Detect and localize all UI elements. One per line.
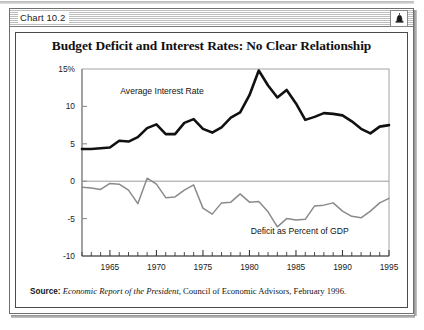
series-label-1: Average Interest Rate [120,86,204,96]
y-tick-label: 0 [70,176,75,186]
screenshot-root: Chart 10.2 Budget Deficit and Interest R… [0,0,424,330]
window-title: Chart 10.2 [18,11,69,24]
y-tick-label: -10 [63,251,75,261]
source-prefix: Source: [30,287,60,296]
window-titlebar[interactable]: Chart 10.2 [10,9,413,27]
window-top-rule [0,1,414,4]
y-tick-label: -5 [68,214,76,224]
window-widget-button[interactable] [390,10,408,27]
window-drop-shadow-bottom [11,315,415,318]
x-tick-label: 1965 [101,262,120,272]
line-chart-svg: 15%1050-5-101965197019751980198519901995… [16,59,409,289]
y-tick-label: 5 [70,139,75,149]
x-tick-label: 1975 [194,262,213,272]
x-tick-label: 1985 [287,262,306,272]
x-tick-label: 1980 [240,262,259,272]
x-tick-label: 1990 [333,262,352,272]
chart-content-frame: Budget Deficit and Interest Rates: No Cl… [15,32,408,308]
source-note: Source: Economic Report of the President… [30,286,346,296]
y-tick-label: 10 [66,101,76,111]
series-label-2: Deficit as Percent of GDP [251,226,349,236]
chart-window: Chart 10.2 Budget Deficit and Interest R… [9,8,414,314]
bell-icon [394,13,405,24]
x-tick-label: 1970 [147,262,166,272]
source-rest: Council of Economic Advisors, February 1… [181,286,346,296]
chart-title: Budget Deficit and Interest Rates: No Cl… [16,38,407,54]
series-line-1 [82,70,389,149]
x-tick-label: 1995 [380,262,399,272]
series-line-2 [82,178,389,227]
y-tick-label: 15% [58,64,75,74]
chart-plot-area: 15%1050-5-101965197019751980198519901995… [16,59,409,289]
window-drop-shadow-right [414,10,417,316]
source-publication: Economic Report of the President, [63,286,181,296]
